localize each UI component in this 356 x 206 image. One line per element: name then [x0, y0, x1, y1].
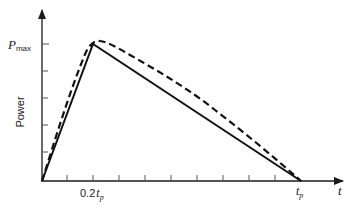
- power-chart: Power Pmax 0.2tp tp t: [0, 0, 356, 206]
- actual-power-curve: [42, 41, 301, 181]
- x-tick-label-tp: tp: [296, 184, 303, 200]
- pmax-label: Pmax: [7, 37, 31, 53]
- y-ticks: [42, 44, 49, 152]
- x-ticks: [67, 175, 275, 181]
- x-tick-label-0.2tp: 0.2tp: [80, 186, 104, 202]
- y-axis-label: Power: [14, 96, 26, 128]
- x-axis-label: t: [338, 183, 342, 198]
